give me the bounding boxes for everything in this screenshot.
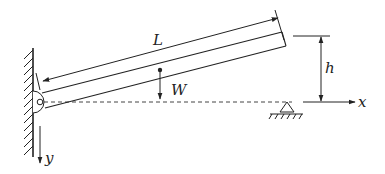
y-axis: y (40, 126, 54, 167)
height-dimension: h (293, 36, 335, 101)
beam-diagram: L W h x y (0, 0, 385, 174)
x-axis: x (303, 93, 367, 111)
fixed-wall (24, 48, 33, 157)
length-label: L (152, 31, 163, 49)
x-axis-label: x (358, 93, 367, 111)
roller-support (269, 102, 303, 119)
pin-joint (33, 91, 44, 113)
weight-label: W (171, 81, 188, 99)
height-label: h (325, 59, 335, 77)
y-axis-label: y (44, 149, 54, 167)
inclined-beam (42, 32, 286, 108)
